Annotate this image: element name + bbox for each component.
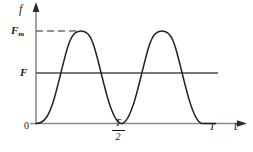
half-period-tick-label: T 2 xyxy=(109,118,127,142)
average-force-tick-label: F xyxy=(20,67,27,78)
y-axis-label: f xyxy=(19,3,22,15)
y-axis-arrowhead xyxy=(33,2,40,12)
half-period-denominator: 2 xyxy=(116,132,121,143)
half-period-numerator: T xyxy=(115,118,121,129)
x-axis-arrowhead xyxy=(237,120,247,127)
x-axis-label: t xyxy=(234,120,237,132)
force-curve xyxy=(36,31,216,124)
origin-label: 0 xyxy=(24,121,29,131)
force-vs-time-figure: f t Fm F 0 T 2 T xyxy=(0,0,253,152)
peak-force-tick-label: Fm xyxy=(11,25,24,38)
peak-force-subscript: m xyxy=(18,30,24,38)
period-tick-label: T xyxy=(209,121,215,132)
